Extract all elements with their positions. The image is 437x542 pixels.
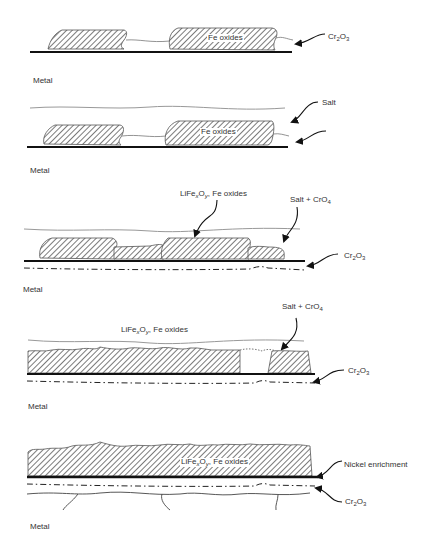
salt-line — [24, 228, 300, 231]
cr2o3-dash-dot-line — [27, 484, 315, 487]
panel-5 — [27, 442, 342, 510]
nickel-enrichment-label: Nickel enrichment — [344, 461, 408, 469]
fe-oxide-nodule — [114, 245, 164, 260]
lifexoy-fe-oxides-label: LiFexOy, Fe oxides — [180, 190, 247, 199]
lifexoy-fe-oxide-layer — [28, 347, 240, 373]
salt-cro4-arrow — [282, 318, 297, 349]
cr2o3-label: Cr2O3 — [328, 33, 349, 42]
grain-boundary-attack — [162, 494, 170, 510]
panel-1 — [30, 28, 325, 52]
salt-line — [28, 340, 304, 344]
metal-label: Metal — [30, 167, 50, 175]
grain-boundary-attack — [276, 495, 278, 510]
cr2o3-label: Cr2O3 — [345, 498, 366, 507]
panel-2 — [27, 102, 326, 147]
cr2o3-arrow — [316, 488, 342, 502]
lifexoy-fe-oxides-label: LiFexOy, Fe oxides — [121, 326, 188, 335]
fe-oxide-nodule — [161, 238, 250, 259]
salt-arrow — [292, 102, 318, 122]
salt-label: Salt — [322, 99, 336, 107]
lifexoy-fe-oxide-layer — [28, 442, 312, 476]
cr2o3-label: Cr2O3 — [348, 367, 369, 376]
cr2o3-arrow — [308, 254, 338, 266]
nickel-enrichment-arrow — [317, 461, 342, 477]
cr2o3-dash-dot-line — [27, 381, 315, 384]
metal-label: Metal — [23, 286, 43, 294]
fe-oxides-label: Fe oxides — [200, 128, 237, 136]
cr2o3-thin-layer — [273, 134, 289, 136]
metal-label: Metal — [28, 403, 48, 411]
salt-line — [30, 106, 285, 109]
cr2o3-arrow — [296, 34, 325, 44]
panel-3 — [24, 200, 338, 270]
fe-oxide-nodule — [40, 238, 117, 259]
cr2o3-arrow — [297, 131, 326, 142]
lifexoy-fe-oxides-label: LiFexOy, Fe oxides — [180, 458, 249, 467]
fe-oxide-nodule — [248, 246, 284, 259]
fe-oxide-nodule — [44, 125, 124, 145]
cr2o3-thin-layer — [126, 40, 170, 42]
metal-interface-line — [27, 492, 310, 495]
grain-boundary-attack — [63, 494, 78, 510]
cr2o3-thin-layer — [276, 37, 293, 40]
cr2o3-thin-layer — [122, 135, 166, 136]
fe-oxide-nodule — [48, 30, 127, 49]
cr2o3-label: Cr2O3 — [344, 252, 365, 261]
cr2o3-arrow — [314, 370, 344, 382]
salt-cro4-label: Salt + CrO4 — [290, 196, 331, 205]
salt-cro4-label: Salt + CrO4 — [282, 303, 323, 312]
salt-cro4-arrow — [284, 207, 297, 241]
cr2o3-dash-dot-line — [24, 267, 305, 270]
metal-label: Metal — [30, 523, 50, 531]
metal-label: Metal — [33, 77, 53, 85]
lifexoy-fe-oxide-layer — [268, 351, 311, 373]
fe-oxides-label: Fe oxides — [207, 34, 244, 42]
